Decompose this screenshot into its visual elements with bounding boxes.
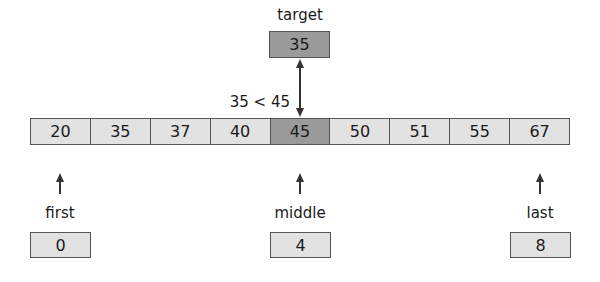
array-cell: 35	[91, 119, 151, 144]
first-label: first	[20, 204, 100, 222]
target-box: 35	[269, 31, 330, 58]
array-cell-middle: 45	[271, 119, 331, 144]
sorted-array: 20 35 37 40 45 50 51 55 67	[30, 118, 570, 145]
last-label: last	[500, 204, 580, 222]
first-index-box: 0	[30, 232, 91, 258]
target-label: target	[260, 6, 340, 24]
array-cell: 51	[390, 119, 450, 144]
array-cell: 20	[31, 119, 91, 144]
array-cell: 37	[151, 119, 211, 144]
middle-index-box: 4	[270, 232, 331, 258]
middle-label: middle	[255, 204, 345, 222]
comparison-label: 35 < 45	[200, 93, 290, 111]
array-cell: 67	[510, 119, 569, 144]
array-cell: 50	[330, 119, 390, 144]
last-index-box: 8	[510, 232, 571, 258]
array-cell: 40	[211, 119, 271, 144]
array-cell: 55	[450, 119, 510, 144]
